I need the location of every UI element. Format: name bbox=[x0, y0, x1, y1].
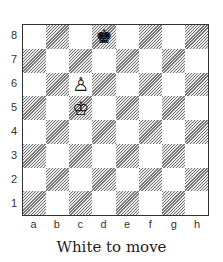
square-b5[interactable] bbox=[46, 96, 69, 120]
rank-label-5: 5 bbox=[9, 101, 19, 113]
square-d2[interactable] bbox=[92, 168, 115, 192]
square-f2[interactable] bbox=[139, 168, 162, 192]
square-d1[interactable] bbox=[92, 191, 115, 215]
rank-label-8: 8 bbox=[9, 29, 19, 41]
square-g8[interactable] bbox=[162, 25, 185, 49]
file-label-b: b bbox=[45, 218, 68, 230]
square-h3[interactable] bbox=[185, 144, 208, 168]
square-b8[interactable] bbox=[46, 25, 69, 49]
file-label-c: c bbox=[69, 218, 92, 230]
square-e1[interactable] bbox=[116, 191, 139, 215]
square-b4[interactable] bbox=[46, 120, 69, 144]
square-b1[interactable] bbox=[46, 191, 69, 215]
square-e6[interactable] bbox=[116, 73, 139, 97]
square-b6[interactable] bbox=[46, 73, 69, 97]
square-e3[interactable] bbox=[116, 144, 139, 168]
file-label-h: h bbox=[186, 218, 209, 230]
square-a1[interactable] bbox=[23, 191, 46, 215]
white-king-icon[interactable]: ♔ bbox=[72, 99, 89, 118]
rank-label-1: 1 bbox=[9, 197, 19, 209]
square-h7[interactable] bbox=[185, 49, 208, 73]
square-g3[interactable] bbox=[162, 144, 185, 168]
square-c6[interactable]: ♙ bbox=[69, 73, 92, 97]
square-g7[interactable] bbox=[162, 49, 185, 73]
square-h6[interactable] bbox=[185, 73, 208, 97]
square-c1[interactable] bbox=[69, 191, 92, 215]
square-h5[interactable] bbox=[185, 96, 208, 120]
square-h2[interactable] bbox=[185, 168, 208, 192]
square-a7[interactable] bbox=[23, 49, 46, 73]
square-c8[interactable] bbox=[69, 25, 92, 49]
square-c7[interactable] bbox=[69, 49, 92, 73]
rank-label-6: 6 bbox=[9, 77, 19, 89]
square-e4[interactable] bbox=[116, 120, 139, 144]
square-f5[interactable] bbox=[139, 96, 162, 120]
square-d4[interactable] bbox=[92, 120, 115, 144]
square-d3[interactable] bbox=[92, 144, 115, 168]
rank-label-7: 7 bbox=[9, 53, 19, 65]
square-d5[interactable] bbox=[92, 96, 115, 120]
square-d6[interactable] bbox=[92, 73, 115, 97]
black-king-icon[interactable]: ♚ bbox=[95, 27, 112, 46]
square-f8[interactable] bbox=[139, 25, 162, 49]
square-c5[interactable]: ♔ bbox=[69, 96, 92, 120]
square-h1[interactable] bbox=[185, 191, 208, 215]
side-to-move-caption: White to move bbox=[0, 238, 223, 256]
white-pawn-icon[interactable]: ♙ bbox=[72, 75, 89, 94]
square-e5[interactable] bbox=[116, 96, 139, 120]
square-a3[interactable] bbox=[23, 144, 46, 168]
file-label-e: e bbox=[116, 218, 139, 230]
square-h4[interactable] bbox=[185, 120, 208, 144]
square-e2[interactable] bbox=[116, 168, 139, 192]
square-h8[interactable] bbox=[185, 25, 208, 49]
square-a5[interactable] bbox=[23, 96, 46, 120]
chess-board: ♚♙♔ bbox=[22, 24, 209, 216]
square-e8[interactable] bbox=[116, 25, 139, 49]
square-g2[interactable] bbox=[162, 168, 185, 192]
rank-label-3: 3 bbox=[9, 149, 19, 161]
square-f7[interactable] bbox=[139, 49, 162, 73]
square-c2[interactable] bbox=[69, 168, 92, 192]
file-label-f: f bbox=[139, 218, 162, 230]
rank-label-2: 2 bbox=[9, 173, 19, 185]
rank-label-4: 4 bbox=[9, 125, 19, 137]
square-g5[interactable] bbox=[162, 96, 185, 120]
square-e7[interactable] bbox=[116, 49, 139, 73]
square-a4[interactable] bbox=[23, 120, 46, 144]
file-label-a: a bbox=[22, 218, 45, 230]
square-f4[interactable] bbox=[139, 120, 162, 144]
square-f3[interactable] bbox=[139, 144, 162, 168]
square-a2[interactable] bbox=[23, 168, 46, 192]
square-b2[interactable] bbox=[46, 168, 69, 192]
square-f1[interactable] bbox=[139, 191, 162, 215]
square-g6[interactable] bbox=[162, 73, 185, 97]
square-f6[interactable] bbox=[139, 73, 162, 97]
file-label-g: g bbox=[162, 218, 185, 230]
square-g1[interactable] bbox=[162, 191, 185, 215]
square-c4[interactable] bbox=[69, 120, 92, 144]
square-d7[interactable] bbox=[92, 49, 115, 73]
file-label-d: d bbox=[92, 218, 115, 230]
square-b3[interactable] bbox=[46, 144, 69, 168]
square-d8[interactable]: ♚ bbox=[92, 25, 115, 49]
square-a6[interactable] bbox=[23, 73, 46, 97]
square-a8[interactable] bbox=[23, 25, 46, 49]
square-b7[interactable] bbox=[46, 49, 69, 73]
square-g4[interactable] bbox=[162, 120, 185, 144]
square-c3[interactable] bbox=[69, 144, 92, 168]
